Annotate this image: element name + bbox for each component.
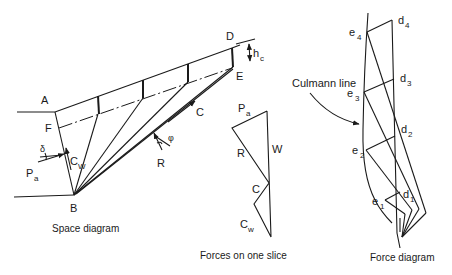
hc-dimension-arrow — [249, 44, 250, 61]
ed-connector-3 — [364, 79, 394, 92]
caption-forces-on-one-slice: Forces on one slice — [200, 250, 287, 261]
trial-plane-4 — [74, 67, 233, 195]
label-slice-c: C — [252, 183, 260, 195]
space-diagram: A F B D E h c C R φ δ P a C W Space diag… — [14, 30, 264, 234]
diagram-canvas: A F B D E h c C R φ δ P a C W Space diag… — [0, 0, 452, 275]
wall-back — [55, 112, 74, 195]
label-pa: P — [26, 167, 33, 179]
label-f: F — [45, 122, 52, 134]
label-slice-cw-sub: w — [247, 225, 254, 234]
label-d4-sub: 4 — [405, 21, 410, 30]
weight-line — [392, 20, 400, 248]
trial-plane-2 — [74, 98, 143, 195]
label-d: D — [226, 30, 234, 42]
caption-force-diagram: Force diagram — [370, 252, 434, 263]
label-e4-sub: 4 — [357, 33, 362, 42]
label-e2-sub: 2 — [360, 151, 365, 160]
label-r: R — [157, 157, 165, 169]
label-slice-w: W — [272, 143, 283, 155]
label-slice-r: R — [237, 147, 245, 159]
label-h-sub: c — [260, 54, 264, 63]
force-c-arrow — [168, 101, 195, 122]
trial-line-3 — [364, 92, 419, 209]
label-d2: d — [401, 123, 407, 135]
label-cw: C — [70, 155, 78, 167]
label-delta: δ — [40, 144, 45, 154]
label-e3-sub: 3 — [355, 94, 360, 103]
label-e3: e — [347, 87, 353, 99]
ed-connector-4 — [367, 20, 392, 32]
label-e4: e — [349, 26, 355, 38]
label-b: B — [70, 202, 77, 214]
ed-connector-1 — [385, 192, 400, 200]
label-a: A — [41, 94, 49, 106]
label-h: h — [253, 47, 259, 59]
label-slice-pa-sub: a — [246, 109, 251, 118]
culmann-line — [363, 13, 392, 223]
trial-plane-4b — [76, 69, 233, 194]
label-e2: e — [352, 144, 358, 156]
force-polygon — [232, 111, 271, 237]
base-line — [14, 195, 74, 197]
label-d1-sub: 1 — [410, 195, 415, 204]
force-diagram: Culmann line e 4 e 3 e 2 e 1 d 4 d 3 d 2… — [292, 13, 434, 263]
slice-divider — [98, 96, 99, 114]
trial-line-1 — [385, 200, 405, 214]
label-e1-sub: 1 — [380, 202, 385, 211]
hc-tick-top — [236, 39, 255, 44]
crack-depth-line — [59, 68, 232, 128]
label-slice-cw: C — [240, 218, 248, 230]
label-pa-sub: a — [34, 174, 39, 183]
trial-line-4 — [367, 32, 426, 213]
force-r-arrow — [154, 133, 162, 150]
label-cw-sub: W — [78, 162, 86, 171]
label-d3: d — [400, 72, 406, 84]
label-e: E — [236, 70, 243, 82]
label-slice-pa: P — [238, 102, 245, 114]
label-d2-sub: 2 — [408, 130, 413, 139]
ground-surface-ext — [232, 45, 240, 48]
label-c: C — [196, 106, 204, 118]
label-phi: φ — [168, 133, 174, 143]
slice-divider — [232, 48, 233, 67]
label-d1: d — [403, 188, 409, 200]
caption-space-diagram: Space diagram — [52, 223, 119, 234]
label-d4: d — [398, 14, 404, 26]
slice-force-polygon: P a W R C C w Forces on one slice — [200, 102, 287, 261]
label-e1: e — [372, 195, 378, 207]
label-d3-sub: 3 — [407, 79, 412, 88]
